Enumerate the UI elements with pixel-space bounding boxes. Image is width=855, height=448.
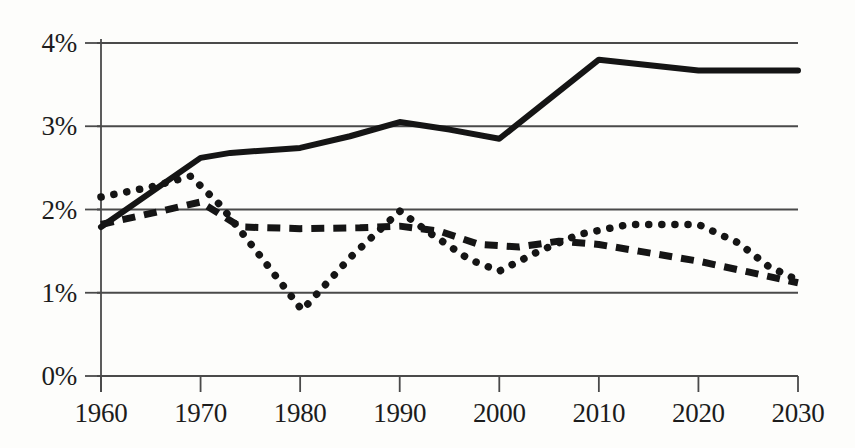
plot-area — [0, 0, 855, 448]
x-axis-tick-label: 1970 — [174, 398, 227, 429]
line-chart: 0%1%2%3%4% 19601970198019902000201020202… — [0, 0, 855, 448]
x-axis-tick-label: 1990 — [373, 398, 426, 429]
x-axis-tick-label: 1960 — [75, 398, 128, 429]
y-axis-tick-label: 2% — [42, 194, 77, 225]
y-axis-tick-label: 4% — [42, 28, 77, 59]
series-dashed-series — [101, 202, 798, 283]
series-dotted-series — [101, 176, 798, 310]
y-ticks — [85, 43, 101, 376]
series-solid-series — [101, 60, 798, 227]
x-axis-tick-label: 2030 — [772, 398, 825, 429]
gridlines — [97, 43, 798, 376]
x-axis-tick-label: 2010 — [572, 398, 625, 429]
x-axis-tick-label: 1980 — [274, 398, 327, 429]
y-axis-tick-label: 3% — [42, 111, 77, 142]
x-axis-tick-label: 2020 — [672, 398, 725, 429]
series-lines — [101, 60, 798, 311]
y-axis-tick-label: 0% — [42, 361, 77, 392]
x-axis-tick-label: 2000 — [473, 398, 526, 429]
x-ticks — [101, 376, 798, 392]
y-axis-tick-label: 1% — [42, 277, 77, 308]
